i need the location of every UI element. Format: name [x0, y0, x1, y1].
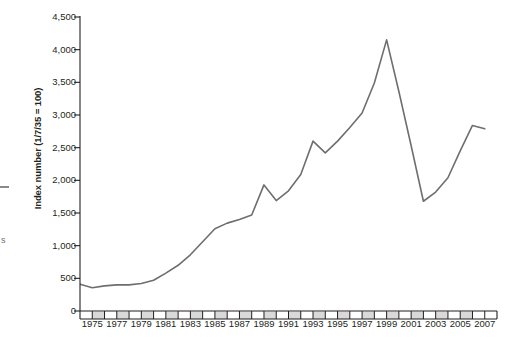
plot-area — [80, 17, 498, 311]
x-axis-tick-label: 1975 — [82, 319, 103, 329]
line-chart: s Index number (1/7/35 = 100) 05001,0001… — [0, 0, 530, 337]
y-axis-tick-label: 1,500 — [34, 208, 76, 218]
x-axis-tick-label: 1999 — [376, 319, 397, 329]
x-axis-tick-label: 1991 — [278, 319, 299, 329]
y-axis-tick-label: 2,500 — [34, 143, 76, 153]
x-axis-tick-label: 1995 — [327, 319, 348, 329]
y-axis-tick-label: 4,500 — [34, 12, 76, 22]
y-axis-tick-label: 2,000 — [34, 175, 76, 185]
y-axis-tick-label: 500 — [34, 273, 76, 283]
data-line-svg — [80, 17, 498, 311]
x-axis-tick-label: 2005 — [450, 319, 471, 329]
y-axis-tick-label: 3,500 — [34, 77, 76, 87]
y-axis-tick-label: 0 — [34, 306, 76, 316]
y-axis-tick-labels: 05001,0001,5002,0002,5003,0003,5004,0004… — [34, 0, 76, 337]
x-axis-tick-label: 1985 — [204, 319, 225, 329]
y-axis-tick-label: 3,000 — [34, 110, 76, 120]
x-axis-tick-label: 1981 — [155, 319, 176, 329]
data-series-line — [80, 40, 485, 288]
x-axis-tick-label: 1979 — [131, 319, 152, 329]
page-edge-letter-fragment: s — [1, 236, 6, 245]
x-axis-tick-label: 1997 — [352, 319, 373, 329]
page-edge-dash-fragment — [0, 186, 9, 188]
x-axis-tick-label: 1977 — [106, 319, 127, 329]
y-axis-tick-label: 4,000 — [34, 45, 76, 55]
x-axis-tick-label: 1983 — [180, 319, 201, 329]
x-axis-tick-label: 2001 — [401, 319, 422, 329]
x-axis-tick-label: 2003 — [425, 319, 446, 329]
x-axis-tick-label: 2007 — [474, 319, 495, 329]
x-axis-tick-label: 1993 — [302, 319, 323, 329]
x-axis-tick-labels: 1975197719791981198319851987198919911993… — [0, 319, 530, 335]
y-axis-tick-label: 1,000 — [34, 241, 76, 251]
x-axis-tick-label: 1989 — [253, 319, 274, 329]
x-axis-tick-label: 1987 — [229, 319, 250, 329]
